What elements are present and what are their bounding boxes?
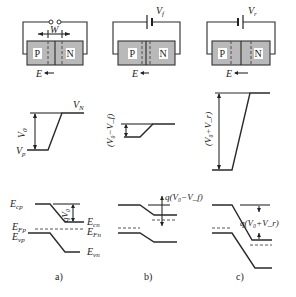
field-arrow-icon <box>234 71 238 75</box>
source-label: Vr <box>248 5 257 18</box>
valence-band-b <box>118 233 177 242</box>
valence-band-c <box>212 233 272 268</box>
qv0-plus-vr-label: q(V₀+V_r) <box>240 218 279 228</box>
potential-curve-b <box>124 124 175 137</box>
panel-a-circuit: P N W E <box>23 20 87 79</box>
valence-band-a <box>28 233 80 252</box>
panel-c-potential: (V₀+V_r) <box>203 93 270 170</box>
arrow-up-icon <box>124 124 128 128</box>
vn-label: VN <box>73 99 84 112</box>
v0-label: V0 <box>16 128 29 138</box>
caption-b: b) <box>144 271 152 283</box>
field-label: E <box>35 68 42 79</box>
panel-a-potential: V0 VN Vp <box>16 99 84 158</box>
panel-c-circuit: Vr P N E <box>207 5 275 79</box>
p-label: P <box>130 48 136 59</box>
pn-junction-figure: P N W E Vf P N E V <box>0 0 296 297</box>
field-arrow-icon <box>140 71 144 75</box>
panel-a-bands: qV₀ Ecp Ecn EFp EFn Evp Evn a) <box>9 198 101 283</box>
v0-plus-vr-label: (V₀+V_r) <box>203 112 213 146</box>
n-label: N <box>160 48 167 59</box>
p-label: P <box>220 48 226 59</box>
arrow-up-icon <box>217 93 221 98</box>
ecp-label: Ecp <box>9 198 23 211</box>
width-label: W <box>50 24 60 35</box>
panel-b-bands: q(V₀−V_f) b) <box>118 192 203 283</box>
panel-c-bands: q(V₀+V_r) c) <box>212 205 279 283</box>
p-label: P <box>35 48 41 59</box>
caption-a: a) <box>55 271 63 283</box>
evn-label: Evn <box>86 246 100 259</box>
qv0-label: qV₀ <box>60 209 70 222</box>
arrow-up-icon <box>33 113 37 118</box>
arrow-down-icon <box>217 165 221 170</box>
v0-minus-vf-label: (V₀−V_f) <box>105 114 115 147</box>
arrow-left-icon <box>38 32 43 36</box>
source-label: Vf <box>156 5 165 18</box>
caption-c: c) <box>236 271 244 283</box>
panel-b-potential: (V₀−V_f) <box>105 114 175 147</box>
field-label: E <box>225 68 232 79</box>
n-label: N <box>67 48 74 59</box>
vp-label: Vp <box>16 145 26 158</box>
panel-b-circuit: Vf P N E <box>113 5 180 79</box>
conduction-band-b <box>118 205 177 215</box>
arrow-right-icon <box>65 32 70 36</box>
field-arrow-icon <box>44 71 48 75</box>
n-label: N <box>255 48 262 59</box>
potential-curve-c <box>212 93 270 170</box>
field-label: E <box>131 68 138 79</box>
qv0-minus-vf-label: q(V₀−V_f) <box>165 192 203 202</box>
arrow-down-icon <box>33 145 37 150</box>
